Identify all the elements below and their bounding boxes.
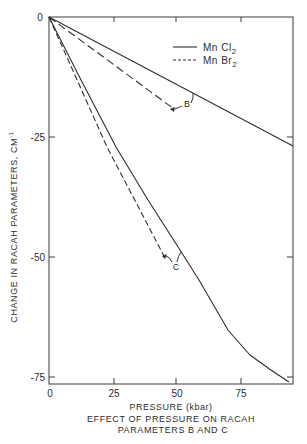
y-tick-label: 0	[37, 12, 43, 23]
legend: Mn Cl2 Mn Br2	[173, 42, 237, 69]
caption-line-2: PARAMETERS B AND C	[118, 425, 229, 435]
series-lines	[49, 17, 293, 382]
annotation-b: B	[184, 99, 190, 109]
legend-solid-label: Mn Cl2	[203, 42, 237, 56]
x-ticks	[114, 17, 241, 384]
racah-pressure-chart: 0 -25 -50 -75 0 25 50 75 CHANGE IN RACAH…	[0, 0, 307, 444]
legend-dashed-label: Mn Br2	[203, 55, 237, 69]
y-tick-label: -25	[31, 132, 46, 143]
y-tick-label: -50	[31, 252, 46, 263]
caption-line-1: EFFECT OF PRESSURE ON RACAH	[87, 414, 255, 424]
x-tick-label: 0	[47, 388, 53, 399]
y-tick-label: -75	[31, 372, 46, 383]
series-mnbr2-c	[49, 17, 164, 256]
series-mnbr2-b	[49, 17, 174, 109]
plot-frame	[49, 17, 293, 384]
annotation-connectors	[166, 93, 193, 262]
y-ticks	[49, 137, 293, 377]
x-axis-label: PRESSURE (kbar)	[129, 402, 212, 412]
series-mncl2-b	[49, 17, 293, 146]
series-mncl2-c	[49, 17, 289, 382]
annotation-c: C	[173, 262, 180, 272]
x-tick-label: 50	[171, 388, 183, 399]
y-axis-label: CHANGE IN RACAH PARAMETERS, CM-1	[8, 131, 19, 322]
x-tick-label: 25	[108, 388, 120, 399]
arrowhead-b	[170, 107, 175, 112]
x-tick-label: 75	[235, 388, 247, 399]
